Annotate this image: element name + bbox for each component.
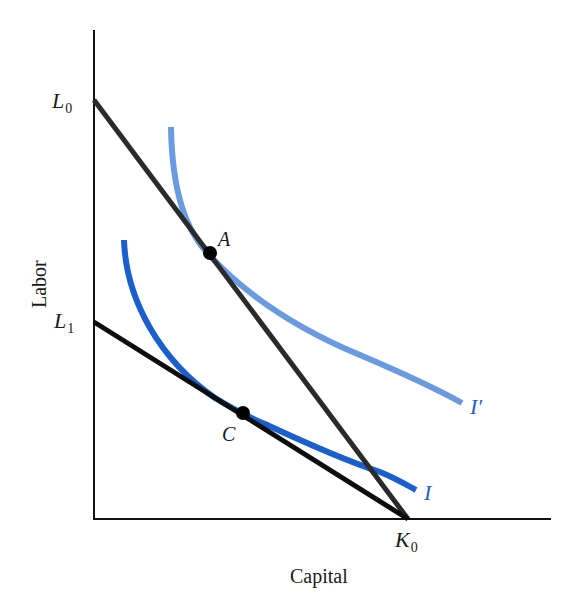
l0-label: L0	[51, 88, 72, 116]
l1-label: L1	[53, 308, 74, 336]
isocost-line-l1-k0	[94, 322, 408, 519]
x-axis-title: Capital	[290, 565, 348, 588]
k0-label: K0	[394, 527, 418, 555]
curve-i-label: I	[423, 480, 433, 505]
y-axis-title: Labor	[28, 260, 50, 308]
point-c-label: C	[222, 423, 236, 445]
point-a-label: A	[216, 228, 231, 250]
curve-i-prime-label: I′	[469, 394, 483, 419]
point-c-marker	[236, 406, 250, 420]
isoquant-i-curve	[124, 240, 416, 490]
isoquant-isocost-diagram: A C L0 L1 K0 I I′ Capital Labor	[0, 0, 569, 611]
point-a-marker	[203, 246, 217, 260]
